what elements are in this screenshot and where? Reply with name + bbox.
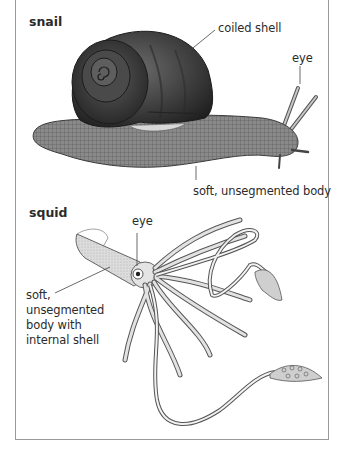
squid-eye-label: eye (132, 214, 153, 228)
squid-body-label-line: internal shell (26, 333, 116, 348)
snail-illustration (33, 31, 316, 168)
snail-body-label: soft, unsegmented body (193, 184, 331, 198)
snail-eye-label: eye (292, 51, 313, 65)
coiled-shell-leader (188, 30, 215, 52)
snail-title: snail (29, 14, 62, 29)
squid-body-label-line: soft, (26, 288, 116, 303)
squid-body-label-line: unsegmented (26, 303, 116, 318)
squid-body-label-line: body with (26, 318, 116, 333)
illustration (0, 0, 341, 452)
squid-body-label: soft, unsegmented body with internal she… (26, 288, 116, 348)
coiled-shell-label: coiled shell (218, 21, 281, 35)
squid-title: squid (29, 205, 68, 220)
